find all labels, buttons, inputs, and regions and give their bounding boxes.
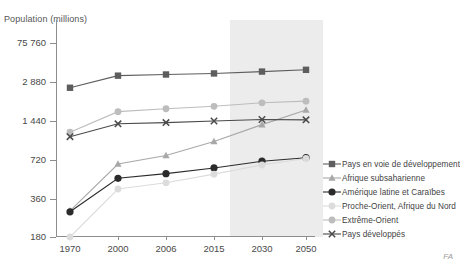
legend-marker-icon bbox=[322, 185, 342, 199]
x-tick bbox=[70, 236, 71, 240]
x-tick bbox=[306, 236, 307, 240]
legend-item-0[interactable]: Pays en voie de développement bbox=[322, 157, 457, 171]
y-tick bbox=[50, 160, 56, 161]
legend-item-label: Extrême-Orient bbox=[342, 216, 398, 225]
legend-item-3[interactable]: Proche-Orient, Afrique du Nord bbox=[322, 199, 457, 213]
x-tick bbox=[214, 236, 215, 240]
x-tick-label: 2000 bbox=[98, 243, 138, 254]
legend-item-label: Proche-Orient, Afrique du Nord bbox=[342, 202, 456, 211]
y-tick bbox=[50, 237, 56, 238]
credit-mark: FA bbox=[443, 252, 453, 261]
y-axis-line bbox=[56, 20, 57, 237]
legend-item-label: Amérique latine et Caraïbes bbox=[342, 188, 445, 197]
legend-marker-icon bbox=[322, 157, 342, 171]
legend-marker-icon bbox=[322, 227, 342, 241]
projection-band bbox=[230, 20, 323, 237]
y-tick-label: 360 bbox=[0, 193, 46, 204]
legend-item-label: Pays développés bbox=[342, 230, 405, 239]
legend-item-5[interactable]: Pays développés bbox=[322, 227, 457, 241]
y-tick bbox=[50, 199, 56, 200]
y-tick bbox=[50, 121, 56, 122]
legend-item-2[interactable]: Amérique latine et Caraïbes bbox=[322, 185, 457, 199]
y-tick bbox=[50, 82, 56, 83]
y-tick-label: 2 880 bbox=[0, 76, 46, 87]
y-tick-label: 75 760 bbox=[0, 37, 46, 48]
plot-area bbox=[56, 20, 314, 237]
legend-marker-icon bbox=[322, 199, 342, 213]
legend-item-1[interactable]: Afrique subsaharienne bbox=[322, 171, 457, 185]
legend-item-label: Pays en voie de développement bbox=[342, 160, 460, 169]
y-tick-label: 720 bbox=[0, 154, 46, 165]
x-tick-label: 2015 bbox=[194, 243, 234, 254]
x-tick bbox=[118, 236, 119, 240]
y-tick-label: 180 bbox=[0, 231, 46, 242]
legend-item-label: Afrique subsaharienne bbox=[342, 174, 425, 183]
chart-legend: Pays en voie de développementAfrique sub… bbox=[322, 157, 457, 241]
legend-marker-icon bbox=[322, 171, 342, 185]
x-tick-label: 2050 bbox=[286, 243, 326, 254]
y-tick-label: 1 440 bbox=[0, 115, 46, 126]
x-tick bbox=[262, 236, 263, 240]
x-tick-label: 2006 bbox=[146, 243, 186, 254]
legend-item-4[interactable]: Extrême-Orient bbox=[322, 213, 457, 227]
x-axis-line bbox=[56, 236, 315, 237]
y-tick bbox=[50, 43, 56, 44]
x-tick-label: 1970 bbox=[50, 243, 90, 254]
legend-marker-icon bbox=[322, 213, 342, 227]
x-tick-label: 2030 bbox=[242, 243, 282, 254]
x-tick bbox=[166, 236, 167, 240]
